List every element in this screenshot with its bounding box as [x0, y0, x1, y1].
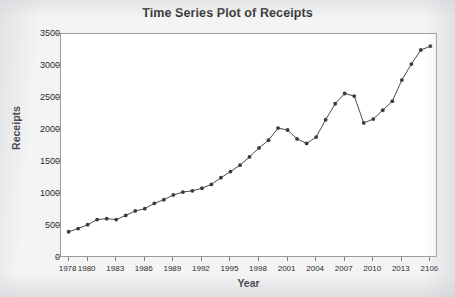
x-tick-label: 1986 [135, 264, 153, 273]
x-tick-label: 1992 [192, 264, 210, 273]
x-tick-label: 2004 [306, 264, 324, 273]
data-point [257, 146, 261, 150]
data-point [152, 201, 156, 205]
plot-area [60, 33, 437, 257]
data-point [219, 176, 223, 180]
x-tick-label: 2001 [278, 264, 296, 273]
x-tick-label: 1995 [221, 264, 239, 273]
data-point [276, 126, 280, 130]
x-tick-mark [144, 257, 145, 261]
data-point [400, 78, 404, 82]
data-point [238, 163, 242, 167]
y-tick-label: 500 [16, 220, 60, 230]
x-tick-mark [287, 257, 288, 261]
x-tick-label: 1980 [78, 264, 96, 273]
x-tick-label: 1998 [249, 264, 267, 273]
y-tick-label: 0 [16, 252, 60, 262]
x-axis-title: Year [60, 277, 437, 289]
data-point [105, 217, 109, 221]
data-line [69, 46, 431, 232]
data-point [419, 48, 423, 52]
x-tick-mark [401, 257, 402, 261]
x-tick-label: 2106 [420, 264, 438, 273]
x-tick-mark [229, 257, 230, 261]
data-point [305, 142, 309, 146]
data-point [343, 92, 347, 96]
x-tick-label: 1983 [106, 264, 124, 273]
data-point [333, 102, 337, 106]
data-point [114, 218, 118, 222]
y-tick-label: 3500 [16, 28, 60, 38]
x-tick-label: 1989 [163, 264, 181, 273]
data-point [286, 128, 290, 132]
chart-title: Time Series Plot of Receipts [0, 6, 455, 20]
data-point [181, 190, 185, 194]
y-tick-label: 2500 [16, 92, 60, 102]
x-tick-mark [429, 257, 430, 261]
data-point [200, 186, 204, 190]
data-point [76, 227, 80, 231]
x-tick-label: 2007 [335, 264, 353, 273]
data-point [162, 198, 166, 202]
x-tick-mark [344, 257, 345, 261]
data-point [390, 99, 394, 103]
data-point [210, 183, 214, 187]
data-point [362, 121, 366, 125]
x-tick-mark [172, 257, 173, 261]
series-receipts [61, 34, 438, 258]
x-tick-mark [315, 257, 316, 261]
data-point [229, 170, 233, 174]
chart-figure: Time Series Plot of Receipts Receipts 05… [0, 0, 455, 297]
data-point [428, 44, 432, 48]
x-tick-label: 2013 [392, 264, 410, 273]
data-point [267, 138, 271, 142]
x-tick-label: 2010 [363, 264, 381, 273]
x-tick-mark [87, 257, 88, 261]
y-tick-label: 2000 [16, 124, 60, 134]
data-point [171, 193, 175, 197]
data-point [381, 108, 385, 112]
data-point [295, 137, 299, 141]
data-point [133, 209, 137, 213]
data-point [324, 118, 328, 122]
x-tick-mark [258, 257, 259, 261]
x-tick-mark [68, 257, 69, 261]
data-point [248, 155, 252, 159]
y-tick-label: 3000 [16, 60, 60, 70]
x-tick-mark [372, 257, 373, 261]
data-point [190, 189, 194, 193]
data-point [409, 62, 413, 66]
data-point [86, 223, 90, 227]
data-markers [67, 44, 433, 233]
data-point [352, 94, 356, 98]
x-tick-mark [115, 257, 116, 261]
data-point [124, 214, 128, 218]
y-tick-label: 1500 [16, 156, 60, 166]
data-point [67, 230, 71, 234]
y-axis: Receipts 0500100015002000250030003500 [0, 0, 60, 297]
y-tick-label: 1000 [16, 188, 60, 198]
data-point [143, 207, 147, 211]
x-tick-label: 1978 [59, 264, 77, 273]
x-tick-mark [201, 257, 202, 261]
data-point [371, 117, 375, 121]
data-point [314, 135, 318, 139]
data-point [95, 218, 99, 222]
